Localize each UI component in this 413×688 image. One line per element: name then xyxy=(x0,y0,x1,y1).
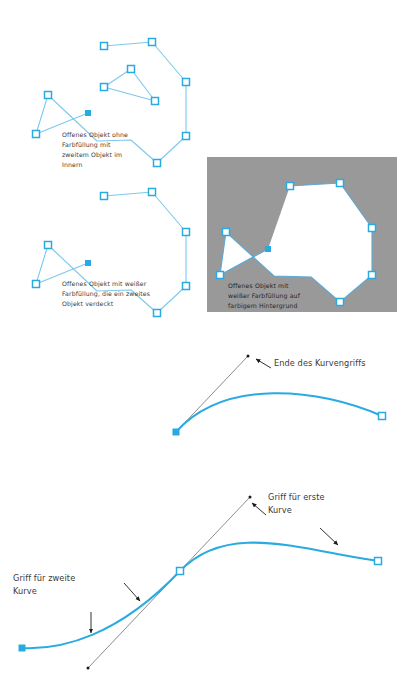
annotation-handle-second-curve: Griff für zweite Kurve xyxy=(13,572,75,597)
node-handle-square[interactable] xyxy=(183,133,190,140)
annotation-end-of-curve-handle: Ende des Kurvengriffs xyxy=(274,357,365,370)
node-handle-square[interactable] xyxy=(223,229,230,236)
caption-open-object-white-fill: Offenes Objekt mit weißer Farbfüllung, d… xyxy=(62,279,150,309)
leader-line-end-of-handle xyxy=(256,359,271,368)
leader-line-first-handle xyxy=(252,503,266,515)
node-handle-square[interactable] xyxy=(152,98,159,105)
curve-handle-end-dot[interactable] xyxy=(247,355,250,358)
node-anchor-filled-square[interactable] xyxy=(85,260,91,266)
curve-handle-end-dot-first[interactable] xyxy=(249,496,252,499)
node-handle-square[interactable] xyxy=(375,558,382,565)
node-handle-square[interactable] xyxy=(33,281,40,288)
node-handle-square[interactable] xyxy=(217,272,224,279)
node-anchor-filled-square[interactable] xyxy=(173,429,180,436)
node-handle-square[interactable] xyxy=(45,92,52,99)
node-handle-square-middle[interactable] xyxy=(177,568,184,575)
node-handle-square[interactable] xyxy=(183,79,190,86)
node-anchor-filled-square[interactable] xyxy=(265,246,271,252)
node-anchor-filled-square[interactable] xyxy=(85,110,91,116)
node-handle-square[interactable] xyxy=(101,43,108,50)
node-handle-square[interactable] xyxy=(154,310,161,317)
node-handle-square[interactable] xyxy=(287,183,294,190)
node-handle-square[interactable] xyxy=(379,413,386,420)
node-handle-square[interactable] xyxy=(183,229,190,236)
polygon-inner-triangle-1 xyxy=(104,69,155,101)
node-handle-square[interactable] xyxy=(154,160,161,167)
node-handle-square[interactable] xyxy=(337,180,344,187)
node-handle-square[interactable] xyxy=(369,272,376,279)
leader-line-first-curve-segment xyxy=(320,528,338,545)
node-handle-square[interactable] xyxy=(101,193,108,200)
caption-open-object-on-gray: Offenes Objekt mit weißer Farbfüllung au… xyxy=(228,281,300,311)
node-handle-square[interactable] xyxy=(45,242,52,249)
node-handle-square[interactable] xyxy=(369,225,376,232)
node-handle-square[interactable] xyxy=(149,189,156,196)
leader-line-second-curve-segment xyxy=(124,583,140,601)
node-anchor-filled-square[interactable] xyxy=(19,645,26,652)
node-handle-square[interactable] xyxy=(337,299,344,306)
node-handle-square[interactable] xyxy=(33,131,40,138)
node-handle-square[interactable] xyxy=(128,66,135,73)
bezier-curve-lower-s xyxy=(22,543,378,649)
illustration-figure: Offenes Objekt ohne Farbfüllung mit zwei… xyxy=(0,0,413,688)
annotation-handle-first-curve: Griff für erste Kurve xyxy=(268,491,325,516)
node-handle-square[interactable] xyxy=(149,39,156,46)
curve-handle-end-dot-second[interactable] xyxy=(87,667,90,670)
caption-open-object-no-fill: Offenes Objekt ohne Farbfüllung mit zwei… xyxy=(62,130,128,170)
node-handle-square[interactable] xyxy=(101,84,108,91)
node-handle-square[interactable] xyxy=(183,283,190,290)
